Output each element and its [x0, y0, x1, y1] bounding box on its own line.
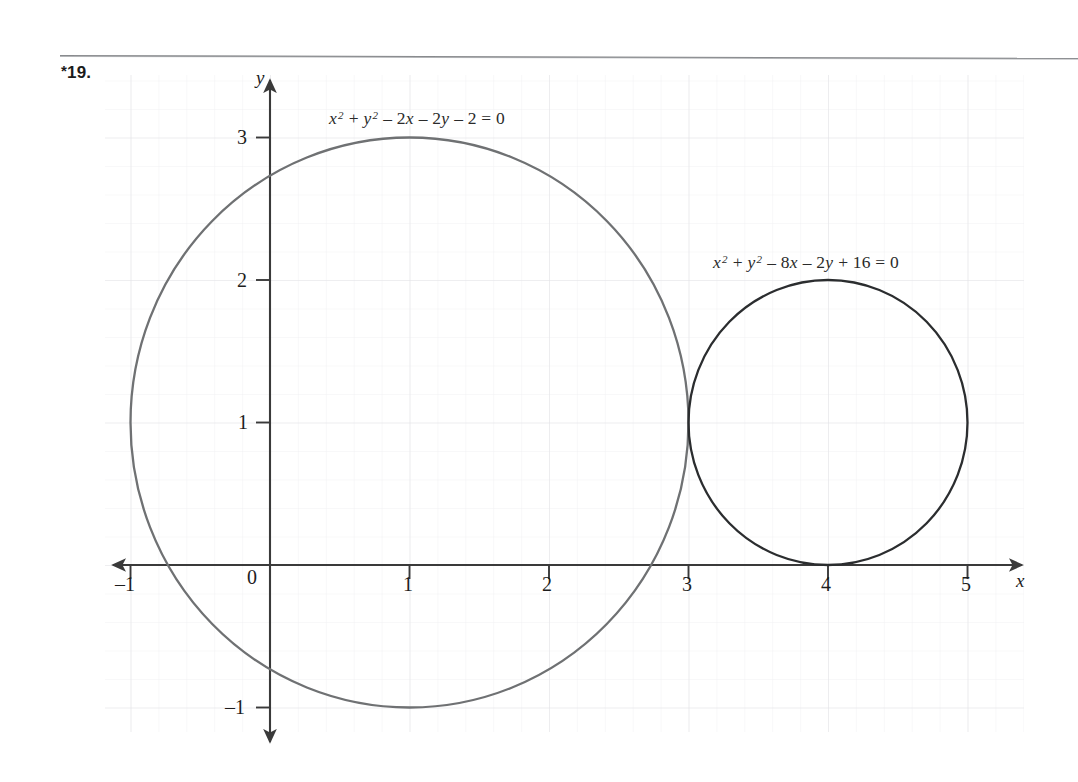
y-tick-label-1: 1 [238, 411, 248, 434]
equation-label-big-circle: x2 + y2 – 2x – 2y – 2 = 0 [329, 108, 505, 129]
y-tick-label-2: 2 [237, 269, 247, 292]
x-tick-label-1: 1 [403, 573, 413, 596]
figure-page: *19. [0, 0, 1078, 782]
y-tick-label-3: 3 [237, 126, 247, 149]
y-axis-name: y [256, 67, 264, 89]
coordinate-plot: x2 + y2 – 2x – 2y – 2 = 0 x2 + y2 – 8x –… [0, 0, 1078, 782]
origin-label: 0 [247, 566, 257, 589]
x-axis-name: x [1016, 570, 1024, 592]
plot-svg [0, 0, 1078, 782]
x-tick-label-4: 4 [821, 573, 831, 596]
equation-label-small-circle: x2 + y2 – 8x – 2y + 16 = 0 [713, 252, 899, 273]
x-tick-label-2: 2 [542, 573, 552, 596]
plot-grid [105, 75, 1024, 732]
x-tick-label-3: 3 [682, 573, 692, 596]
x-tick-label-5: 5 [961, 573, 971, 596]
x-tick-label--1: –1 [115, 573, 135, 596]
y-tick-label--1: –1 [225, 696, 245, 719]
